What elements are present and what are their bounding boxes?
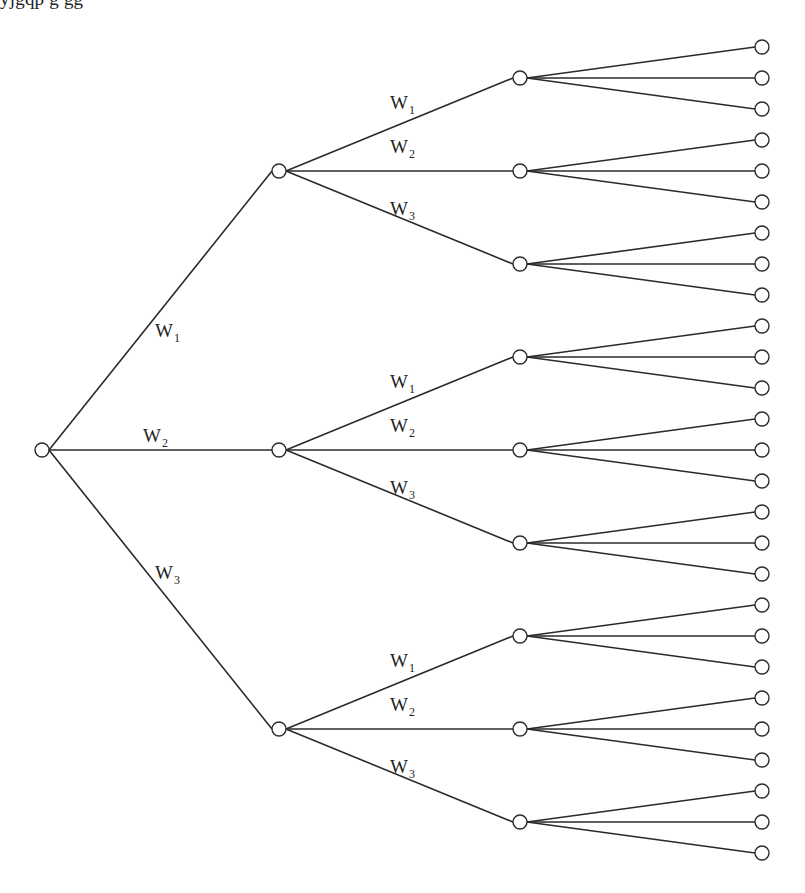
edge-leaf-2-1-3 (527, 357, 755, 388)
edge-label-level1-w1: W1 (155, 320, 180, 345)
leaf-node (755, 257, 769, 271)
level2-node-2-1 (513, 350, 527, 364)
edge-leaf-1-3-1 (527, 233, 755, 264)
level2-node-3-1 (513, 629, 527, 643)
edge-label-level2-w1: W1 (390, 371, 415, 396)
edge-leaf-3-2-3 (527, 729, 755, 760)
level2-node-3-2 (513, 722, 527, 736)
edge-leaf-1-2-1 (527, 140, 755, 171)
leaf-node (755, 598, 769, 612)
labels-layer: W1W1W2W3W2W1W2W3W3W1W2W3 (143, 92, 415, 781)
level2-node-1-3 (513, 257, 527, 271)
leaf-node (755, 691, 769, 705)
leaf-node (755, 226, 769, 240)
edge-leaf-3-2-1 (527, 698, 755, 729)
leaf-node (755, 443, 769, 457)
edge-leaf-3-3-3 (527, 822, 755, 853)
edge-label-level2-w1: W1 (390, 92, 415, 117)
leaf-node (755, 412, 769, 426)
level2-node-1-2 (513, 164, 527, 178)
edge-leaf-1-1-1 (527, 47, 755, 78)
level1-node-2 (272, 443, 286, 457)
edge-leaf-3-1-3 (527, 636, 755, 667)
edge-label-level2-w1: W1 (390, 650, 415, 675)
edge-label-level2-w2: W2 (390, 415, 415, 440)
edge-leaf-2-2-1 (527, 419, 755, 450)
leaf-node (755, 164, 769, 178)
level2-node-2-2 (513, 443, 527, 457)
leaf-node (755, 474, 769, 488)
leaf-node (755, 133, 769, 147)
edge-leaf-1-1-3 (527, 78, 755, 109)
leaf-node (755, 319, 769, 333)
edge-leaf-2-3-1 (527, 512, 755, 543)
leaf-node (755, 846, 769, 860)
leaf-node (755, 288, 769, 302)
level2-node-1-1 (513, 71, 527, 85)
leaf-node (755, 722, 769, 736)
edge-leaf-2-2-3 (527, 450, 755, 481)
edge-label-level1-w3: W3 (155, 562, 180, 587)
edge-leaf-2-3-3 (527, 543, 755, 574)
edge-level1-3 (49, 450, 272, 729)
edge-label-level2-w2: W2 (390, 136, 415, 161)
leaf-node (755, 815, 769, 829)
leaf-node (755, 784, 769, 798)
level2-node-2-3 (513, 536, 527, 550)
leaf-node (755, 102, 769, 116)
leaf-node (755, 536, 769, 550)
level1-node-1 (272, 164, 286, 178)
edge-level1-1 (49, 171, 272, 450)
leaf-node (755, 195, 769, 209)
leaf-node (755, 505, 769, 519)
root-node (35, 443, 49, 457)
edge-label-level1-w2: W2 (143, 425, 168, 450)
edges-layer (49, 47, 755, 853)
edge-leaf-1-2-3 (527, 171, 755, 202)
level2-node-3-3 (513, 815, 527, 829)
leaf-node (755, 40, 769, 54)
edge-leaf-3-1-1 (527, 605, 755, 636)
leaf-node (755, 660, 769, 674)
edge-leaf-2-1-1 (527, 326, 755, 357)
leaf-node (755, 753, 769, 767)
edge-leaf-3-3-1 (527, 791, 755, 822)
tree-diagram: W1W1W2W3W2W1W2W3W3W1W2W3 (0, 0, 805, 893)
level1-node-3 (272, 722, 286, 736)
leaf-node (755, 567, 769, 581)
leaf-node (755, 381, 769, 395)
leaf-node (755, 71, 769, 85)
leaf-node (755, 350, 769, 364)
leaf-node (755, 629, 769, 643)
edge-label-level2-w2: W2 (390, 694, 415, 719)
edge-leaf-1-3-3 (527, 264, 755, 295)
